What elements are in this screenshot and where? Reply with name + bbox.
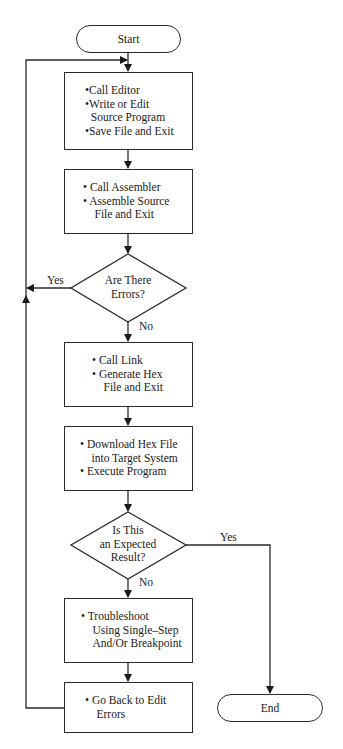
link-line-2: • Generate Hex (92, 368, 192, 382)
expected-line-2: an Expected (80, 538, 176, 552)
assemble-line-2: • Assemble Source (83, 195, 192, 209)
expected-no-label: No (139, 576, 153, 588)
troubleshoot-line-3: And/Or Breakpoint (81, 637, 192, 651)
end-label: End (261, 702, 280, 714)
start-terminal: Start (76, 25, 181, 53)
troubleshoot-process-box: • Troubleshoot Using Single–Step And/Or … (64, 598, 193, 663)
edit-line-2: •Write or Edit (85, 98, 192, 112)
errors-no-label: No (139, 320, 153, 332)
errors-decision-text: Are There Errors? (80, 274, 176, 301)
link-process-box: • Call Link • Generate Hex File and Exit (64, 342, 193, 407)
expected-line-1: Is This (80, 524, 176, 538)
edit-line-1: •Call Editor (85, 84, 192, 98)
download-line-2: into Target System (80, 452, 192, 466)
download-line-3: • Execute Program (80, 465, 192, 479)
end-terminal: End (217, 694, 323, 722)
start-label: Start (118, 33, 140, 45)
goback-line-1: • Go Back to Edit (85, 694, 192, 708)
expected-yes-label: Yes (220, 531, 237, 543)
assemble-line-3: File and Exit (83, 208, 192, 222)
edit-line-3: Source Program (85, 111, 192, 125)
troubleshoot-line-1: • Troubleshoot (81, 610, 192, 624)
download-process-box: • Download Hex File into Target System •… (64, 426, 193, 491)
edit-process-box: •Call Editor •Write or Edit Source Progr… (64, 72, 193, 150)
errors-line-2: Errors? (80, 288, 176, 302)
loop-back-line (26, 296, 64, 708)
goback-process-box: • Go Back to Edit Errors (64, 682, 193, 733)
expected-line-3: Result? (80, 551, 176, 565)
expected-decision-text: Is This an Expected Result? (80, 524, 176, 565)
errors-line-1: Are There (80, 274, 176, 288)
errors-yes-label: Yes (47, 274, 64, 286)
goback-line-2: Errors (85, 708, 192, 722)
arrow-expected-yes (186, 545, 270, 693)
assemble-line-1: • Call Assembler (83, 181, 192, 195)
download-line-1: • Download Hex File (80, 438, 192, 452)
assemble-process-box: • Call Assembler • Assemble Source File … (64, 169, 193, 234)
troubleshoot-line-2: Using Single–Step (81, 624, 192, 638)
edit-line-4: •Save File and Exit (85, 125, 192, 139)
link-line-1: • Call Link (92, 354, 192, 368)
link-line-3: File and Exit (92, 381, 192, 395)
